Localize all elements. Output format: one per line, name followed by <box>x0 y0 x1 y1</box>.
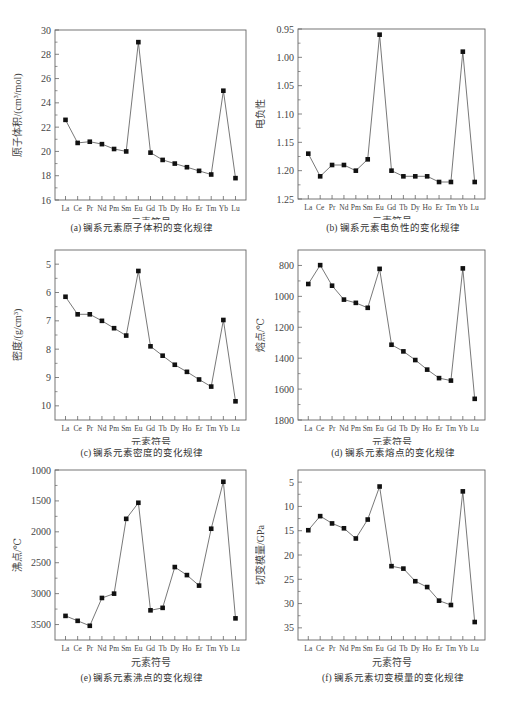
x-tick-label: Pm <box>351 424 361 433</box>
x-tick-label: Er <box>196 644 204 653</box>
x-tick-label: Yb <box>219 204 228 213</box>
y-tick-label: 2500 <box>31 557 51 568</box>
data-point-Yb <box>461 489 466 494</box>
y-tick-label: 1.15 <box>277 137 295 148</box>
x-tick-label: Ce <box>73 204 82 213</box>
x-tick-label: Dy <box>170 204 179 213</box>
data-point-Tb <box>160 158 165 163</box>
series-line <box>66 42 236 178</box>
data-point-Yb <box>221 318 226 323</box>
x-tick-label: Yb <box>219 424 228 433</box>
data-point-Eu <box>377 484 382 489</box>
x-tick-label: Lu <box>231 424 240 433</box>
data-point-Tb <box>401 174 406 179</box>
data-point-La <box>63 294 68 299</box>
y-tick-label: 1600 <box>274 384 294 395</box>
data-point-Lu <box>472 620 477 625</box>
data-point-Er <box>437 376 442 381</box>
x-tick-label: Sm <box>121 424 131 433</box>
chart-e-caption: (e) 镧系元素沸点的变化规律 <box>22 670 262 684</box>
data-point-Tm <box>209 526 214 531</box>
y-tick-label: 800 <box>279 260 294 271</box>
x-tick-label: Lu <box>471 644 480 653</box>
y-tick-label: 1.05 <box>277 80 295 91</box>
data-point-Sm <box>124 517 129 522</box>
y-tick-label: 26 <box>41 73 51 84</box>
x-tick-label: Er <box>196 204 204 213</box>
x-tick-label: Gd <box>387 644 396 653</box>
x-tick-label: Dy <box>170 644 179 653</box>
y-tick-label: 15 <box>284 525 294 536</box>
x-tick-label: Tm <box>446 424 457 433</box>
x-tick-label: Eu <box>134 424 143 433</box>
y-tick-label: 24 <box>41 97 51 108</box>
y-tick-label: 22 <box>41 122 51 133</box>
x-tick-label: Gd <box>387 424 396 433</box>
x-tick-label: La <box>304 203 313 212</box>
data-point-Gd <box>148 344 153 349</box>
y-tick-label: 1.25 <box>277 194 295 205</box>
y-tick-label: 7 <box>46 315 51 326</box>
x-tick-label: Tb <box>399 203 408 212</box>
data-point-Lu <box>233 176 238 181</box>
y-tick-label: 1800 <box>274 415 294 426</box>
data-point-La <box>306 528 311 533</box>
data-point-Pr <box>87 139 92 144</box>
chart-c-caption: (c) 镧系元素密度的变化规律 <box>22 445 262 459</box>
x-axis-label: 元素符号 <box>131 436 171 445</box>
data-point-Ce <box>318 263 323 268</box>
data-point-Ce <box>75 312 80 317</box>
data-point-Er <box>197 583 202 588</box>
chart-e-panel: 100015002000250030003500LaCePrNdPmSmEuGd… <box>0 460 255 706</box>
data-point-Tm <box>449 603 454 608</box>
data-point-Gd <box>389 564 394 569</box>
series-line <box>66 482 236 626</box>
x-tick-label: Yb <box>219 644 228 653</box>
data-point-Gd <box>148 150 153 155</box>
chart-b-panel: 0.951.001.051.101.151.201.25LaCePrNdPmSm… <box>255 0 510 235</box>
chart-e: 100015002000250030003500LaCePrNdPmSmEuGd… <box>0 460 255 670</box>
data-point-Dy <box>413 358 418 363</box>
series-line <box>308 487 474 623</box>
chart-c-panel: 5678910LaCePrNdPmSmEuGdTbDyHoErTmYbLu元素符… <box>0 235 255 460</box>
data-point-Nd <box>100 596 105 601</box>
x-tick-label: Ho <box>182 204 191 213</box>
data-point-Pm <box>354 168 359 173</box>
data-point-Dy <box>172 362 177 367</box>
data-point-Ho <box>425 367 430 372</box>
x-tick-label: Eu <box>134 644 143 653</box>
x-tick-label: Pr <box>86 644 93 653</box>
data-point-Gd <box>389 342 394 347</box>
chart-a-caption: (a) 镧系元素原子体积的变化规律 <box>22 220 262 234</box>
x-axis-label: 元素符号 <box>131 656 171 668</box>
x-tick-label: Tb <box>158 644 167 653</box>
x-tick-label: Ce <box>73 644 82 653</box>
data-point-La <box>306 151 311 156</box>
chart-b-caption: (b) 镧系元素电负性的变化规律 <box>273 220 510 234</box>
x-tick-label: Pr <box>329 424 336 433</box>
x-tick-label: Ho <box>423 644 432 653</box>
data-point-Yb <box>221 88 226 93</box>
x-tick-label: Ce <box>316 203 325 212</box>
y-tick-label: 3500 <box>31 619 51 630</box>
x-tick-label: Ho <box>182 424 191 433</box>
x-tick-label: Pr <box>86 204 93 213</box>
data-point-Pr <box>87 312 92 317</box>
data-point-Yb <box>461 49 466 54</box>
data-point-Eu <box>377 32 382 37</box>
data-point-Ho <box>185 573 190 578</box>
data-point-Tb <box>401 349 406 354</box>
x-tick-label: Ho <box>423 203 432 212</box>
x-tick-label: Eu <box>375 644 384 653</box>
data-point-Pr <box>330 283 335 288</box>
x-tick-label: Sm <box>363 424 373 433</box>
data-point-Er <box>437 598 442 603</box>
chart-c: 5678910LaCePrNdPmSmEuGdTbDyHoErTmYbLu元素符… <box>0 235 255 445</box>
data-point-Dy <box>172 565 177 570</box>
x-tick-label: Sm <box>121 644 131 653</box>
data-point-Sm <box>365 157 370 162</box>
y-tick-label: 1500 <box>31 495 51 506</box>
x-tick-label: Er <box>436 424 444 433</box>
y-tick-label: 3000 <box>31 588 51 599</box>
x-tick-label: Pr <box>329 644 336 653</box>
